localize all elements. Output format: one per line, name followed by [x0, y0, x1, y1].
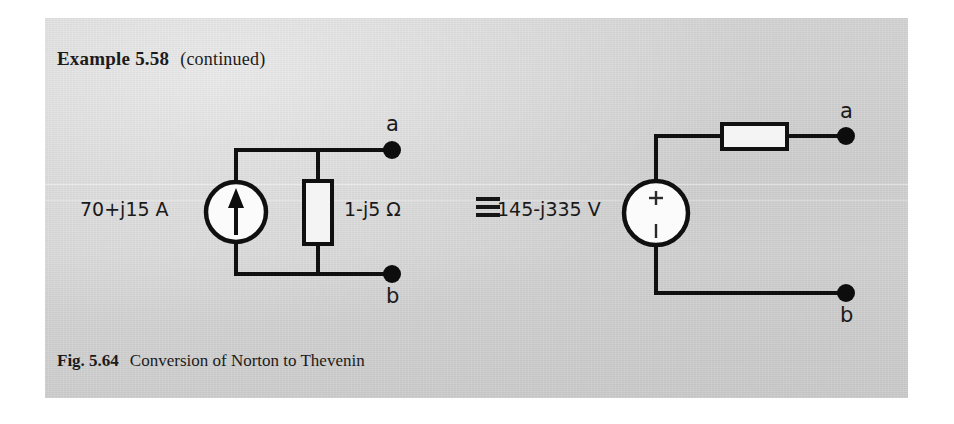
scan-seam-line — [45, 184, 908, 185]
scanned-textbook-page: Example 5.58(continued) — [0, 0, 954, 424]
voltage-source-label: 145-j335 V — [497, 198, 601, 220]
norton-terminal-b-label: b — [386, 284, 399, 308]
example-number: Example 5.58 — [57, 48, 169, 69]
example-heading: Example 5.58(continued) — [57, 48, 265, 70]
thevenin-terminal-b-label: b — [840, 303, 853, 327]
figure-caption-text: Conversion of Norton to Thevenin — [130, 351, 365, 370]
current-source-label: 70+j15 A — [80, 198, 169, 220]
norton-terminal-a-label: a — [386, 112, 399, 136]
figure-number: Fig. 5.64 — [57, 351, 119, 370]
thevenin-terminal-a-label: a — [840, 99, 853, 123]
norton-impedance-label: 1-j5 Ω — [344, 198, 401, 220]
figure-caption: Fig. 5.64Conversion of Norton to Theveni… — [57, 351, 365, 371]
example-continued-note: (continued) — [180, 49, 265, 69]
